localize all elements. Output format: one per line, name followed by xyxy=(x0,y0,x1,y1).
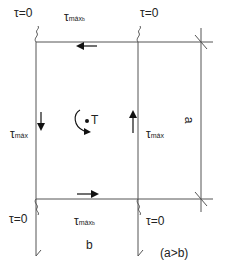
tau-sub: máx xyxy=(15,132,28,139)
tau-max-right: τmáx xyxy=(146,128,164,140)
tau-zero-bottom-right: τ=0 xyxy=(146,215,164,227)
tau-subsub: b xyxy=(92,220,95,226)
tau-max-b-top: τmáxb xyxy=(64,11,85,23)
arrow-up-right-icon xyxy=(129,110,137,133)
arrow-down-left-icon xyxy=(37,112,45,131)
tau-sub: máx xyxy=(79,219,92,226)
tau-zero-top-right: τ=0 xyxy=(140,7,158,19)
tau-zero-top-left: τ=0 xyxy=(14,7,32,19)
dimension-b-label: b xyxy=(86,239,93,251)
tau-max-left: τmáx xyxy=(10,128,28,140)
condition-label: (a>b) xyxy=(160,247,188,259)
tau-zero-bottom-left: τ=0 xyxy=(9,213,27,225)
break-squiggle-top-left xyxy=(35,26,38,42)
tail-left xyxy=(36,250,41,256)
tail-right xyxy=(138,250,143,256)
arrow-top-left-icon xyxy=(76,42,97,50)
tau-subsub: b xyxy=(82,16,85,22)
diagram-canvas xyxy=(0,0,226,270)
arrow-bottom-right-icon xyxy=(77,190,99,198)
torque-icon xyxy=(75,110,91,135)
tau-max-b-bottom: τmáxb xyxy=(74,215,95,227)
dimension-a-label: a xyxy=(183,117,195,124)
tau-sub: máx xyxy=(69,15,82,22)
tau-sub: máx xyxy=(151,132,164,139)
torque-label: T xyxy=(91,114,98,126)
break-squiggle-top-right xyxy=(137,26,140,42)
